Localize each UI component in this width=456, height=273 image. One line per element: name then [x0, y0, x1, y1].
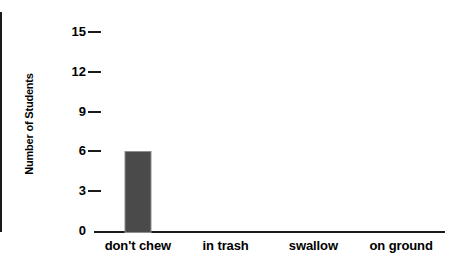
category-label: don't chew	[88, 238, 188, 253]
category-label: on ground	[351, 238, 451, 253]
y-axis-tick-label-15: 15	[50, 25, 86, 38]
category-label: in trash	[176, 238, 276, 253]
category-label: swallow	[263, 238, 363, 253]
bar-slot	[357, 12, 445, 232]
bars-layer	[94, 12, 445, 232]
bar-slot	[270, 12, 358, 232]
y-axis-tick-label-0: 0	[50, 224, 86, 237]
y-axis-tick-label-12: 12	[50, 65, 86, 78]
y-axis-tick-label-9: 9	[50, 105, 86, 118]
y-axis-title: Number of Students	[23, 29, 35, 219]
bar-chart: Number of Students 03691215 don't chewin…	[0, 0, 456, 273]
bar	[125, 152, 150, 232]
y-axis-tick-labels: 03691215	[42, 0, 86, 273]
y-axis-tick-label-3: 3	[50, 184, 86, 197]
bar-slot	[94, 12, 182, 232]
y-axis-line	[0, 12, 2, 232]
bar-slot	[182, 12, 270, 232]
x-axis-category-labels: don't chewin trashswallowon ground	[94, 238, 445, 260]
y-axis-tick-label-6: 6	[50, 144, 86, 157]
